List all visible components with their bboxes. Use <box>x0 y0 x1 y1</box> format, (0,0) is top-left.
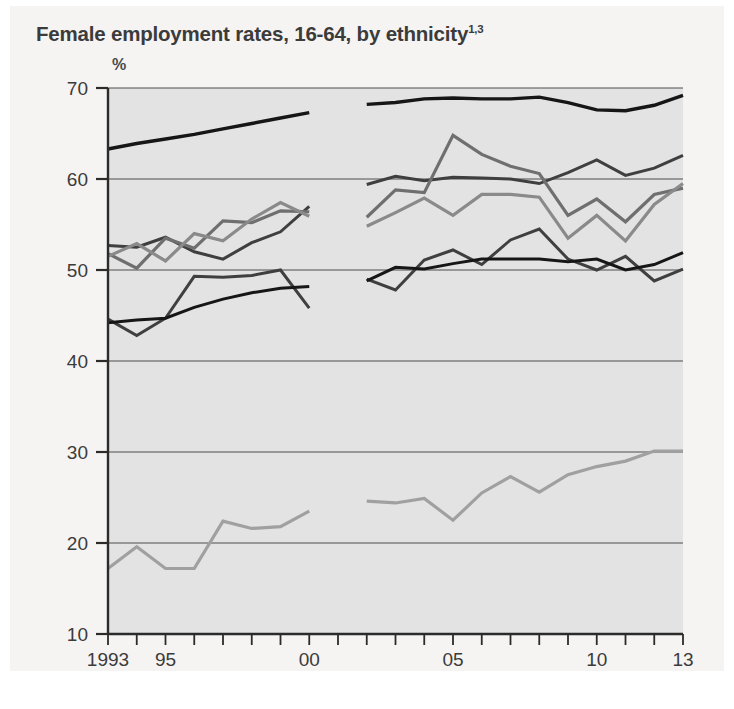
chart-plot-area: 10203040506070 19939500051013 <box>0 0 734 709</box>
chart-figure: Female employment rates, 16-64, by ethni… <box>0 0 734 709</box>
y-tick-label-20: 20 <box>67 533 88 554</box>
x-tick-label-1993: 1993 <box>87 649 129 670</box>
y-tick-label-70: 70 <box>67 78 88 99</box>
y-tick-label-60: 60 <box>67 169 88 190</box>
x-tick-label-00: 00 <box>299 649 320 670</box>
y-tick-label-10: 10 <box>67 624 88 645</box>
y-axis-labels: 10203040506070 <box>67 78 88 645</box>
x-axis-labels: 19939500051013 <box>87 649 694 670</box>
y-axis-ticks <box>96 88 108 634</box>
x-tick-label-05: 05 <box>442 649 463 670</box>
x-axis-ticks <box>108 634 683 645</box>
x-tick-label-10: 10 <box>586 649 607 670</box>
y-tick-label-40: 40 <box>67 351 88 372</box>
y-tick-label-50: 50 <box>67 260 88 281</box>
x-tick-label-95: 95 <box>155 649 176 670</box>
x-tick-label-13: 13 <box>672 649 693 670</box>
y-tick-label-30: 30 <box>67 442 88 463</box>
